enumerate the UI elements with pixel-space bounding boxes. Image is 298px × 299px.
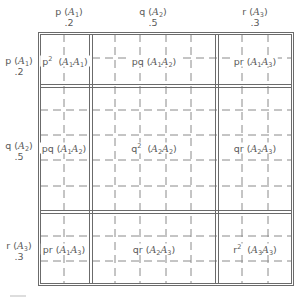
cell-qr-a2a3: qr (A2A3) <box>232 143 278 154</box>
cell-pq-a1a2-row2: pq (A1A2) <box>40 143 89 154</box>
cell-pq-a1a2: pq (A1A2) <box>130 56 179 67</box>
column-header-q: q (A2) .5 <box>128 6 178 28</box>
row-header-p: p (A1) .2 <box>0 55 38 77</box>
cell-q2-a2a2: q2 (A2A2) <box>129 143 179 154</box>
cell-qr-a2a3-row3: qr (A2A3) <box>131 244 177 255</box>
cell-pr-a1a3-row3: pr (A1A3) <box>41 244 87 255</box>
column-header-r: r (A3) .3 <box>230 6 280 28</box>
cell-pr-a1a3: pr (A1A3) <box>232 56 278 67</box>
column-header-p: p (A1) .2 <box>46 6 92 28</box>
cell-r2-a3a3: r2 (A3A3) <box>231 244 279 255</box>
row-header-r: r (A3) .3 <box>0 240 38 262</box>
row-header-q: q (A2) .5 <box>0 140 38 162</box>
cell-p2-a1a1: p2 (A1A1) <box>40 56 90 67</box>
